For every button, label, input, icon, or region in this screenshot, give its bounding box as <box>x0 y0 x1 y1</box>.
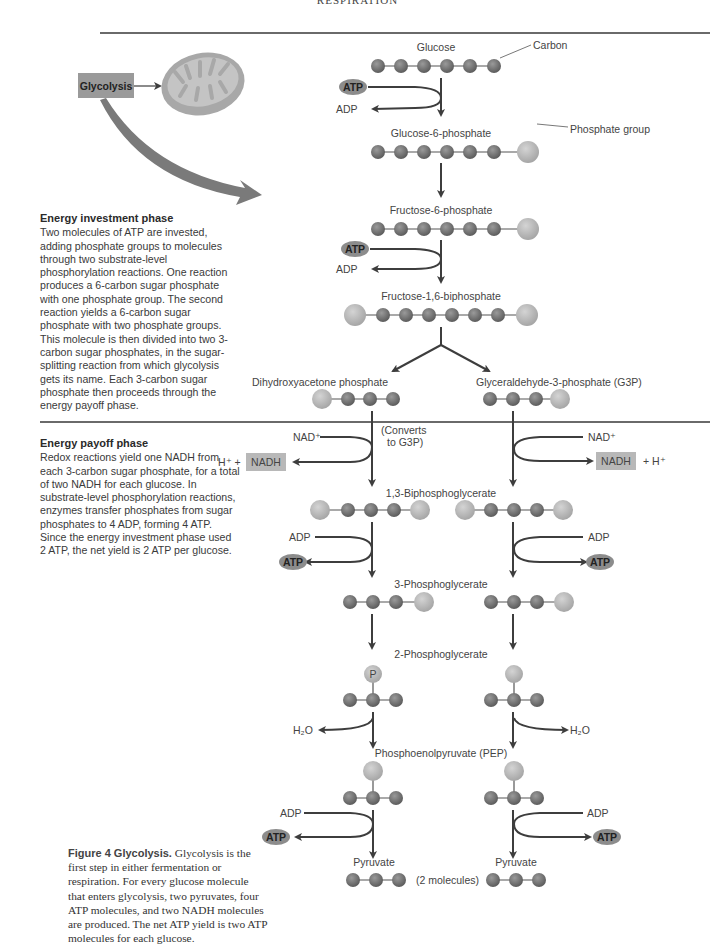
big-curved-arrow <box>100 98 262 205</box>
pg2-right <box>484 665 544 707</box>
svg-text:ATP: ATP <box>597 831 617 843</box>
svg-text:to G3P): to G3P) <box>387 436 423 448</box>
label-pep: Phosphoenolpyruvate (PEP) <box>375 747 508 759</box>
svg-text:ADP: ADP <box>280 807 302 819</box>
g6p-molecule <box>371 141 539 163</box>
atp-input-1: ATP <box>339 79 367 95</box>
glucose-molecule <box>371 59 501 73</box>
svg-text:NADH: NADH <box>251 456 281 468</box>
water-left: H₂O <box>293 724 313 736</box>
f16bp-molecule <box>344 304 538 326</box>
svg-text:ADP: ADP <box>289 531 311 543</box>
label-pyruvate-left: Pyruvate <box>353 856 395 868</box>
pg3-left <box>343 592 434 612</box>
label-pg2: 2-Phosphoglycerate <box>394 648 488 660</box>
pep-right <box>484 761 544 805</box>
label-f6p: Fructose-6-phosphate <box>390 204 493 216</box>
label-pg3: 3-Phosphoglycerate <box>394 578 488 590</box>
carbon-callout: Carbon <box>533 39 568 51</box>
svg-text:NAD⁺: NAD⁺ <box>293 431 321 443</box>
atp-output-right-1: ATP <box>586 554 614 570</box>
atp-output-right-2: ATP <box>593 829 621 845</box>
svg-text:ATP: ATP <box>590 556 610 568</box>
bpg13-right <box>455 500 573 520</box>
pg2-left: P <box>343 665 403 707</box>
phosphate-group-callout: Phosphate group <box>570 123 650 135</box>
svg-text:Glycolysis: Glycolysis <box>80 80 133 92</box>
svg-text:ADP: ADP <box>588 531 610 543</box>
svg-text:ADP: ADP <box>587 807 609 819</box>
label-pyruvate-right: Pyruvate <box>495 856 537 868</box>
nadh-left: NADH <box>246 453 286 471</box>
g3p-molecule <box>483 389 570 409</box>
label-bpg13: 1,3-Biphosphoglycerate <box>386 487 496 499</box>
label-g6p: Glucose-6-phosphate <box>391 127 492 139</box>
svg-text:ADP: ADP <box>336 103 358 115</box>
label-g3p: Glyceraldehyde-3-phosphate (G3P) <box>476 376 642 388</box>
atp-input-2: ATP <box>341 241 369 257</box>
svg-text:+ H⁺: + H⁺ <box>643 455 666 467</box>
svg-text:ATP: ATP <box>343 81 363 93</box>
nadh-right: NADH <box>596 452 636 470</box>
pg3-right <box>484 592 574 612</box>
svg-text:ATP: ATP <box>283 556 303 568</box>
label-f16bp: Fructose-1,6-biphosphate <box>381 290 501 302</box>
svg-text:(Converts: (Converts <box>381 424 427 436</box>
pep-left <box>343 761 403 805</box>
svg-text:NADH: NADH <box>601 455 631 467</box>
svg-text:ATP: ATP <box>266 831 286 843</box>
svg-text:ATP: ATP <box>345 243 365 255</box>
two-molecules-note: (2 molecules) <box>416 874 479 886</box>
atp-output-left-1: ATP <box>279 554 307 570</box>
phosphate-p-label: P <box>369 668 376 680</box>
water-right: H₂O <box>570 724 590 736</box>
pyruvate-right <box>486 873 546 887</box>
svg-text:H⁺ +: H⁺ + <box>218 456 241 468</box>
f6p-molecule <box>371 218 539 240</box>
glycolysis-box: Glycolysis <box>78 73 134 98</box>
bpg13-left <box>310 500 430 520</box>
label-glucose: Glucose <box>417 41 456 53</box>
label-dhap: Dihydroxyacetone phosphate <box>252 376 388 388</box>
mitochondrion-icon <box>155 45 250 123</box>
svg-text:ADP: ADP <box>336 263 358 275</box>
atp-output-left-2: ATP <box>262 829 290 845</box>
svg-text:NAD⁺: NAD⁺ <box>588 431 616 443</box>
pyruvate-left <box>346 873 406 887</box>
dhap-molecule <box>312 389 400 409</box>
